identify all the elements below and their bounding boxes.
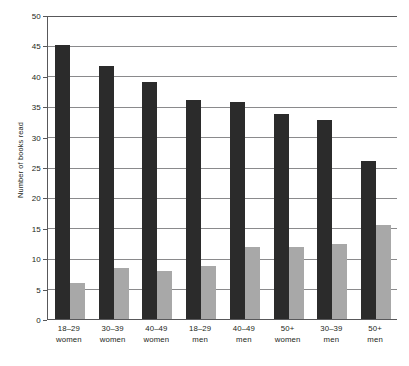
- x-label-age: 50+: [368, 324, 382, 333]
- y-axis-tick-label: 10: [32, 255, 41, 264]
- y-axis-tick: [43, 46, 47, 47]
- y-axis-title: Number of books read: [14, 0, 28, 320]
- bar-dark: [317, 120, 332, 319]
- x-label-gender: men: [178, 335, 222, 346]
- y-axis-tick: [43, 259, 47, 260]
- bar-light: [114, 268, 129, 319]
- bar-dark: [186, 100, 201, 319]
- bar-dark: [230, 102, 245, 319]
- bar-group: [230, 16, 260, 319]
- y-axis-tick-label: 0: [36, 316, 41, 325]
- bar-light: [332, 244, 347, 319]
- bar-group: [55, 16, 85, 319]
- y-axis-tick-label: 15: [32, 224, 41, 233]
- x-label-gender: men: [222, 335, 266, 346]
- bar-dark: [274, 114, 289, 320]
- y-axis-tick: [43, 320, 47, 321]
- y-axis-tick: [43, 198, 47, 199]
- bar-light: [376, 225, 391, 319]
- bar-dark: [142, 82, 157, 319]
- bar-dark: [361, 161, 376, 319]
- x-label-age: 30–39: [101, 324, 123, 333]
- bar-group: [361, 16, 391, 319]
- y-axis-tick-label: 35: [32, 103, 41, 112]
- x-label-age: 50+: [281, 324, 295, 333]
- x-axis-tick-label: 30–39men: [310, 324, 354, 345]
- x-label-age: 40–49: [233, 324, 255, 333]
- y-axis-tick-label: 45: [32, 42, 41, 51]
- x-label-age: 40–49: [145, 324, 167, 333]
- bar-light: [201, 266, 216, 319]
- x-label-gender: men: [310, 335, 354, 346]
- y-axis-tick: [43, 168, 47, 169]
- bar-light: [289, 247, 304, 319]
- bar-dark: [99, 66, 114, 319]
- bar-chart: Number of books read 0510152025303540455…: [0, 0, 409, 366]
- y-axis-tick: [43, 290, 47, 291]
- x-axis-tick-label: 18–29women: [47, 324, 91, 345]
- y-axis-tick: [43, 107, 47, 108]
- bar-group: [317, 16, 347, 319]
- x-label-gender: women: [135, 335, 179, 346]
- bar-group: [186, 16, 216, 319]
- plot-area: [47, 16, 397, 320]
- y-axis-tick-label: 5: [36, 285, 41, 294]
- y-axis-tick-label: 30: [32, 133, 41, 142]
- y-axis-tick-label: 25: [32, 164, 41, 173]
- y-axis-tick-label: 20: [32, 194, 41, 203]
- x-axis-tick-label: 40–49men: [222, 324, 266, 345]
- bar-light: [70, 283, 85, 319]
- y-axis-tick: [43, 77, 47, 78]
- bar-group: [274, 16, 304, 319]
- x-axis-tick-label: 50+men: [353, 324, 397, 345]
- bar-group: [142, 16, 172, 319]
- y-axis-tick: [43, 16, 47, 17]
- bar-dark: [55, 45, 70, 319]
- x-label-age: 30–39: [320, 324, 342, 333]
- x-label-gender: women: [266, 335, 310, 346]
- y-axis-tick: [43, 138, 47, 139]
- bar-light: [157, 271, 172, 319]
- x-label-age: 18–29: [189, 324, 211, 333]
- bar-group: [99, 16, 129, 319]
- x-label-gender: men: [353, 335, 397, 346]
- bar-light: [245, 247, 260, 319]
- x-axis-tick-label: 18–29men: [178, 324, 222, 345]
- x-label-gender: women: [47, 335, 91, 346]
- y-axis-tick-label: 40: [32, 72, 41, 81]
- y-axis-tick-label: 50: [32, 12, 41, 21]
- y-axis-tick: [43, 229, 47, 230]
- x-axis-tick-label: 50+women: [266, 324, 310, 345]
- x-label-gender: women: [91, 335, 135, 346]
- x-label-age: 18–29: [58, 324, 80, 333]
- x-axis-tick-label: 40–49women: [135, 324, 179, 345]
- x-axis-tick-label: 30–39women: [91, 324, 135, 345]
